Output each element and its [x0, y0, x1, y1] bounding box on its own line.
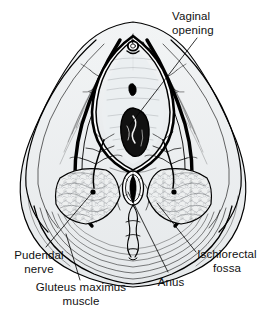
- label-gluteus-maximus-muscle: Gluteus maximusmuscle: [26, 281, 136, 308]
- label-ischiorectal-line1: Ischiorectal: [197, 248, 256, 260]
- label-vaginal-opening: Vaginalopening: [172, 10, 264, 37]
- label-gluteus-line2: muscle: [62, 295, 99, 307]
- label-pudendal-nerve: Pudendalnerve: [2, 249, 76, 276]
- label-anus: Anus: [148, 276, 194, 290]
- label-pudendal-nerve-line1: Pudendal: [14, 249, 63, 261]
- label-vaginal-opening-line1: Vaginal: [172, 10, 210, 22]
- label-gluteus-line1: Gluteus maximus: [36, 281, 126, 293]
- label-vaginal-opening-line2: opening: [172, 24, 214, 36]
- label-anus-line1: Anus: [158, 276, 185, 288]
- anatomy-figure: Vaginalopening Pudendalnerve Gluteus max…: [0, 0, 267, 317]
- label-ischiorectal-line2: fossa: [213, 262, 241, 274]
- urethral-orifice: [129, 84, 136, 96]
- label-pudendal-nerve-line2: nerve: [24, 263, 53, 275]
- label-ischiorectal-fossa: Ischiorectalfossa: [188, 248, 266, 275]
- vaginal-opening: [121, 108, 149, 156]
